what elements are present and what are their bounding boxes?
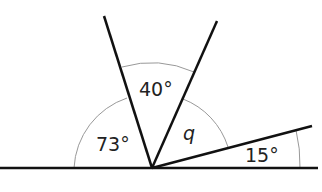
label-q: q [183,122,195,144]
arc-15 [296,130,300,168]
label-73: 73° [96,133,130,155]
ray-right [152,126,312,168]
angle-diagram: 73° 40° q 15° [0,0,322,192]
label-15: 15° [245,144,279,166]
label-40: 40° [139,78,173,100]
arc-40 [122,63,194,72]
